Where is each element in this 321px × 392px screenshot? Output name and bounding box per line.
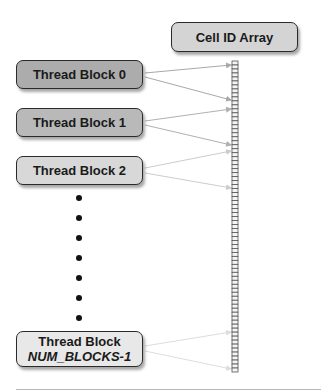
arrow-block0-start xyxy=(145,65,231,73)
thread-block-2-label: Thread Block 2 xyxy=(33,163,126,178)
arrow-blockN-end xyxy=(145,351,231,369)
thread-block-2: Thread Block 2 xyxy=(16,156,143,185)
cell-id-array-label-box: Cell ID Array xyxy=(171,22,298,52)
thread-block-1-label: Thread Block 1 xyxy=(33,115,126,130)
arrow-block2-end xyxy=(145,173,231,188)
bottom-divider xyxy=(16,389,321,390)
arrow-block2-start xyxy=(145,151,231,168)
arrow-block1-end xyxy=(145,125,231,145)
thread-block-last-label-line1: Thread Block xyxy=(38,334,120,349)
thread-block-0: Thread Block 0 xyxy=(16,60,143,89)
arrow-block0-end xyxy=(145,77,231,100)
ellipsis-dot xyxy=(76,275,82,281)
ellipsis-dot xyxy=(76,215,82,221)
arrow-blockN-start xyxy=(145,332,231,346)
ellipsis-dot xyxy=(76,195,82,201)
arrow-block1-start xyxy=(145,109,231,121)
arrows xyxy=(145,65,231,369)
ellipsis-dot xyxy=(76,255,82,261)
thread-block-1: Thread Block 1 xyxy=(16,108,143,137)
ellipsis-dot xyxy=(76,315,82,321)
thread-block-last: Thread Block NUM_BLOCKS-1 xyxy=(16,331,143,367)
thread-block-last-label-line2: NUM_BLOCKS-1 xyxy=(28,349,131,364)
cell-id-array-label: Cell ID Array xyxy=(196,30,274,45)
thread-block-0-label: Thread Block 0 xyxy=(33,67,126,82)
ellipsis-dot xyxy=(76,295,82,301)
ellipsis-dot xyxy=(76,235,82,241)
cell-id-array xyxy=(232,61,238,372)
